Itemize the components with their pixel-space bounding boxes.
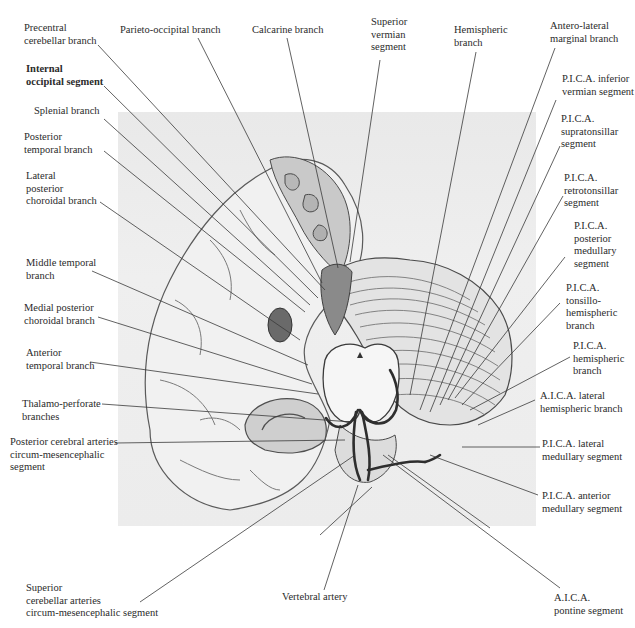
label-middle-temporal-branch: Middle temporal branch	[26, 257, 96, 282]
label-calcarine-branch: Calcarine branch	[252, 24, 323, 37]
label-antero-lateral-marginal-branch: Antero-lateral marginal branch	[550, 20, 618, 45]
label-pica-anterior-medullary-segment: P.I.C.A. anterior medullary segment	[542, 490, 622, 515]
label-lateral-posterior-choroidal-branch: Lateral posterior choroidal branch	[26, 170, 97, 208]
label-aica-pontine-segment: A.I.C.A. pontine segment	[554, 592, 623, 617]
label-vertebral-artery: Vertebral artery	[282, 591, 348, 604]
label-pica-supratonsillar-segment: P.I.C.A. supratonsillar segment	[561, 113, 618, 151]
label-thalamo-perforate-branches: Thalamo-perforate branches	[22, 398, 101, 423]
label-pica-posterior-medullary-segment: P.I.C.A. posterior medullary segment	[574, 220, 617, 270]
ventricle-atrium	[268, 308, 292, 342]
label-internal-occipital-segment: Internal occipital segment	[26, 63, 103, 88]
label-hemispheric-branch: Hemispheric branch	[454, 24, 508, 49]
label-pica-tonsillo-hemispheric-branch: P.I.C.A. tonsillo- hemispheric branch	[566, 282, 617, 332]
label-aica-lateral-hemispheric-branch: A.I.C.A. lateral hemispheric branch	[540, 390, 623, 415]
label-precentral-cerebellar-branch: Precentral cerebellar branch	[24, 22, 97, 47]
hippocampus	[245, 399, 326, 453]
label-anterior-temporal-branch: Anterior temporal branch	[26, 347, 95, 372]
label-pca-circum-mesencephalic-segment: Posterior cerebral arteries circum-mesen…	[10, 436, 118, 474]
label-pica-lateral-medullary-segment: P.I.C.A. lateral medullary segment	[542, 438, 622, 463]
label-superior-vermian-segment: Superior vermian segment	[371, 16, 407, 54]
label-splenial-branch: Splenial branch	[34, 105, 100, 118]
label-parieto-occipital-branch: Parieto-occipital branch	[120, 24, 221, 37]
label-pica-retrotonsillar-segment: P.I.C.A. retrotonsillar segment	[564, 172, 618, 210]
label-posterior-temporal-branch: Posterior temporal branch	[24, 131, 93, 156]
label-sca-circum-mesencephalic-segment: Superior cerebellar arteries circum-mese…	[26, 582, 158, 620]
label-pica-hemispheric-branch: P.I.C.A. hemispheric branch	[573, 340, 624, 378]
label-pica-inferior-vermian-segment: P.I.C.A. inferior vermian segment	[562, 73, 634, 98]
label-medial-posterior-choroidal-branch: Medial posterior choroidal branch	[24, 302, 95, 327]
brain-illustration	[0, 0, 635, 628]
vermis	[321, 264, 352, 335]
